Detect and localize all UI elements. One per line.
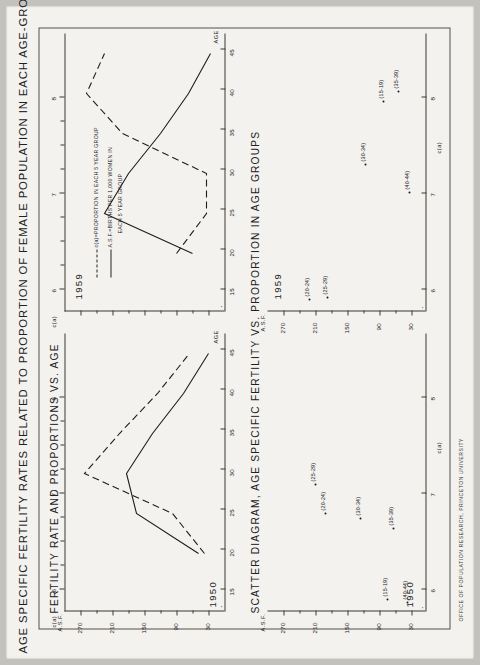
ca-ticklabel-8: 8 <box>49 96 56 100</box>
ca-minor-tick <box>60 420 64 421</box>
y-ticklabel-150: 150 <box>342 622 349 633</box>
secondary-axis-label-1950: c(a) <box>50 615 56 627</box>
y-ticklabel-150: 150 <box>342 322 349 333</box>
y-minor-tick <box>299 310 300 313</box>
scatter-point <box>392 527 394 529</box>
y-ticklabel-30: 30 <box>406 623 413 630</box>
y-ticklabel-270: 270 <box>278 622 285 633</box>
y-minor-tick <box>363 610 364 613</box>
x-ticklabel-25: 25 <box>227 509 234 516</box>
series-asf-1959 <box>104 53 210 253</box>
top-panel-title: FERTILITY RATE AND PROPORTIONS VS. AGE <box>48 343 59 613</box>
scatter-point <box>386 598 388 600</box>
x-tick-8 <box>421 96 426 97</box>
plot-1959-lines: ⋅ AGE 15 20 25 30 35 40 <box>64 33 224 311</box>
scatter-point <box>308 298 310 300</box>
y-tick-150 <box>347 310 348 315</box>
axis-break-marker: ⋅ <box>417 605 426 608</box>
series-asf-1950 <box>126 353 208 553</box>
y-ticklabel-30: 30 <box>203 623 210 630</box>
x-ticklabel-8: 8 <box>428 396 435 400</box>
ca-minor-tick <box>60 564 64 565</box>
y-tick-150 <box>347 610 348 615</box>
scatter-point <box>406 601 408 603</box>
panel-scatter-diagram: SCATTER DIAGRAM, AGE SPECIFIC FERTILITY … <box>243 29 448 629</box>
scatter-1950: A.S.F. 270 210 150 90 30 <box>267 333 425 611</box>
y-axis-label-scatter-1959: A.S.F. <box>259 313 265 331</box>
ca-minor-tick <box>60 120 64 121</box>
x-tick-8 <box>421 396 426 397</box>
y-axis-scatter-1959 <box>267 310 425 311</box>
x-axis-scatter-1950 <box>425 333 426 611</box>
y-ticklabel-210: 210 <box>310 322 317 333</box>
x-ticklabel-40: 40 <box>227 389 234 396</box>
y-axis-scatter-1950 <box>267 610 425 611</box>
scatter-point <box>326 296 328 298</box>
y-minor-tick <box>331 610 332 613</box>
x-ticklabel-7: 7 <box>428 492 435 496</box>
ca-minor-tick <box>60 168 64 169</box>
y-ticklabel-90: 90 <box>171 623 178 630</box>
ca-minor-tick <box>60 516 64 517</box>
y-axis-label-1950: A.S.F. <box>56 613 62 631</box>
x-tick-6 <box>421 288 426 289</box>
x-ticklabel-15: 15 <box>227 588 234 595</box>
scatter-point-label: (15-19) <box>381 577 387 596</box>
figure-main-title: AGE SPECIFIC FERTILITY RATES RELATED TO … <box>16 12 28 653</box>
y-ticklabel-90: 90 <box>374 623 381 630</box>
x-ticklabel-6: 6 <box>428 288 435 292</box>
ca-minor-tick <box>60 540 64 541</box>
x-ticklabel-40: 40 <box>227 89 234 96</box>
ca-ticklabel-8: 8 <box>49 396 56 400</box>
y-tick-270 <box>283 610 284 615</box>
figure-footer-credit: OFFICE OF POPULATION RESEARCH, PRINCETON… <box>457 437 463 621</box>
panel-fertility-vs-age: FERTILITY RATE AND PROPORTIONS VS. AGE 1… <box>38 29 243 629</box>
x-axis-label-scatter-1950: c(a) <box>435 441 441 453</box>
scatter-point-label: (25-29) <box>309 462 315 481</box>
scatter-point <box>364 163 366 165</box>
x-ticklabel-30: 30 <box>227 469 234 476</box>
y-minor-tick <box>363 310 364 313</box>
y-ticklabel-150: 150 <box>139 622 146 633</box>
scatter-point-label: (30-34) <box>359 142 365 161</box>
ca-minor-tick <box>60 264 64 265</box>
y-ticklabel-270: 270 <box>75 622 82 633</box>
series-lines-1950 <box>64 333 225 611</box>
ca-ticklabel-7: 7 <box>49 192 56 196</box>
x-axis-scatter-1959 <box>425 33 426 311</box>
scatter-point-label: (20-24) <box>319 491 325 510</box>
axis-break-marker: ⋅ <box>417 305 426 308</box>
x-ticklabel-7: 7 <box>428 192 435 196</box>
y-minor-tick <box>299 610 300 613</box>
scatter-point-label: (20-24) <box>303 277 309 296</box>
scatter-point-label: (35-39) <box>387 506 393 525</box>
x-ticklabel-35: 35 <box>227 129 234 136</box>
ca-minor-tick <box>60 444 64 445</box>
y-tick-30 <box>411 310 412 315</box>
y-minor-tick <box>331 310 332 313</box>
scatter-point-label: (40-44) <box>401 580 407 599</box>
series-ca-1950 <box>84 353 204 553</box>
ca-minor-tick <box>60 216 64 217</box>
y-tick-210 <box>315 610 316 615</box>
x-ticklabel-45: 45 <box>227 349 234 356</box>
scatter-point-label: (35-39) <box>392 69 398 88</box>
x-ticklabel-30: 30 <box>227 169 234 176</box>
scatter-point <box>382 100 384 102</box>
x-ticklabel-20: 20 <box>227 549 234 556</box>
ca-tick-8 <box>59 396 64 397</box>
ca-minor-tick <box>60 240 64 241</box>
y-axis-label-scatter-1950: A.S.F. <box>259 613 265 631</box>
y-ticklabel-90: 90 <box>374 323 381 330</box>
ca-ticklabel-6: 6 <box>49 588 56 592</box>
y-tick-30 <box>411 610 412 615</box>
ca-ticklabel-6: 6 <box>49 288 56 292</box>
y-tick-90 <box>379 310 380 315</box>
y-ticklabel-270: 270 <box>278 322 285 333</box>
ca-minor-tick <box>60 144 64 145</box>
scatter-point-label: (30-34) <box>354 496 360 515</box>
rotated-figure-canvas: AGE SPECIFIC FERTILITY RATES RELATED TO … <box>10 10 470 655</box>
scatter-point <box>314 483 316 485</box>
scatter-point <box>408 191 410 193</box>
secondary-axis-label-1959: c(a) <box>50 315 56 327</box>
